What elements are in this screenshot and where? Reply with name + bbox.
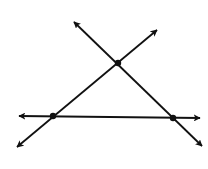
intersection-point-bottom-left bbox=[50, 113, 56, 119]
triangle-lines-diagram bbox=[0, 0, 208, 169]
line-ascending bbox=[17, 30, 157, 147]
points-group bbox=[50, 60, 176, 121]
lines-group bbox=[17, 22, 202, 147]
intersection-point-bottom-right bbox=[170, 115, 176, 121]
intersection-point-top bbox=[115, 60, 121, 66]
